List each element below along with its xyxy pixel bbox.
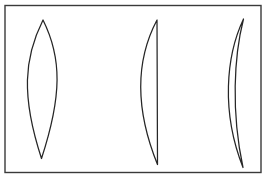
geometry-diagram-canvas [0,0,272,178]
figure-root [0,0,272,178]
